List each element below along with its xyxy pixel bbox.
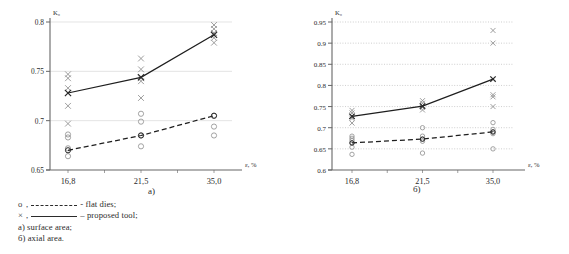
subfigure-caption-b: б)	[413, 184, 421, 194]
scatter-point-cross	[491, 28, 496, 33]
scatter-point-circle	[350, 152, 354, 156]
x-axis-tick-label: 35,0	[486, 177, 500, 186]
legend-comma-flat-dies: ,	[26, 199, 28, 210]
legend-row-flat-dies: o, - flat dies;	[18, 199, 268, 210]
y-axis-tick-label: 0.8	[35, 18, 45, 27]
scatter-point-circle	[65, 154, 70, 159]
y-axis-tick-label: 0.75	[314, 104, 327, 112]
y-axis-tick-label: 0.7	[317, 125, 326, 133]
y-axis-title: K₀	[53, 9, 60, 16]
scatter-point-cross	[211, 40, 217, 46]
x-axis-title: ε, %	[528, 161, 540, 168]
y-axis-tick-label: 0.95	[314, 19, 327, 27]
legend-dashed-line-sample	[31, 202, 77, 208]
legend-row-proposed-tool: ×, – proposed tool;	[18, 210, 268, 221]
figure-container: 0.650.70.750.816,821,535,0K₀ε, % 0.60.65…	[0, 0, 569, 254]
scatter-point-cross	[350, 108, 355, 113]
y-axis-tick-label: 0.7	[35, 117, 45, 126]
x-axis-title: ε, %	[245, 161, 257, 168]
x-axis-tick-label: 35,0	[207, 177, 222, 186]
y-axis-tick-label: 0.65	[314, 146, 327, 154]
chart-panel-axial-area: 0.60.650.70.750.80.850.90.9516,821,535,0…	[285, 0, 569, 210]
x-axis-tick-label: 16,8	[345, 177, 359, 186]
scatter-point-cross	[138, 95, 144, 101]
axial-area-plot: 0.60.650.70.750.80.850.90.9516,821,535,0…	[285, 0, 569, 200]
scatter-point-cross	[350, 121, 355, 126]
figure-legend: o, - flat dies; ×, – proposed tool; a) s…	[18, 199, 268, 245]
surface-area-plot: 0.650.70.750.816,821,535,0K₀ε, %	[0, 0, 285, 200]
series-line-proposed-tool	[352, 79, 493, 116]
legend-comma-proposed-tool: ,	[26, 210, 28, 221]
scatter-point-circle	[138, 119, 143, 124]
series-line-proposed-tool	[68, 35, 214, 93]
y-axis-tick-label: 0.85	[314, 61, 327, 69]
scatter-point-cross	[420, 98, 425, 103]
y-axis-tick-label: 0.9	[317, 40, 326, 48]
legend-note-surface-area: a) surface area;	[18, 222, 268, 233]
chart-panel-surface-area: 0.650.70.750.816,821,535,0K₀ε, %	[0, 0, 285, 210]
scatter-point-cross	[211, 22, 217, 28]
scatter-point-cross	[65, 71, 71, 77]
scatter-point-circle	[138, 144, 143, 149]
scatter-point-cross	[65, 103, 71, 109]
y-axis-tick-label: 0.8	[317, 82, 326, 90]
scatter-point-cross	[65, 85, 71, 91]
x-axis-tick-label: 16,8	[61, 177, 76, 186]
legend-solid-line-sample	[31, 213, 77, 219]
scatter-point-circle	[211, 124, 216, 129]
y-axis-tick-label: 0.6	[317, 167, 326, 175]
legend-marker-circle-icon: o	[18, 199, 26, 210]
x-axis-tick-label: 21,5	[134, 177, 149, 186]
scatter-point-circle	[211, 133, 216, 138]
scatter-point-cross	[65, 121, 71, 127]
scatter-point-circle	[491, 120, 495, 124]
scatter-point-circle	[420, 151, 424, 155]
legend-label-flat-dies: - flat dies;	[80, 199, 116, 210]
legend-note-axial-area: б) axial area.	[18, 233, 268, 244]
scatter-point-circle	[138, 111, 143, 116]
scatter-point-cross	[138, 56, 144, 62]
legend-marker-cross-icon: ×	[18, 210, 26, 221]
y-axis-tick-label: 0.65	[31, 166, 44, 175]
y-axis-tick-label: 0.75	[31, 67, 44, 76]
legend-label-proposed-tool: – proposed tool;	[80, 210, 137, 221]
y-axis-title: K₀	[335, 9, 342, 16]
mean-marker-cross	[490, 76, 495, 81]
subfigure-caption-a: a)	[148, 186, 155, 196]
